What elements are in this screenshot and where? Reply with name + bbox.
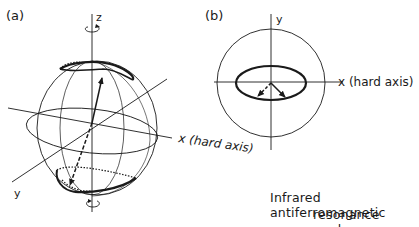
caption-line-2: resonance mode — [313, 207, 419, 227]
x-axis-label: x (hard axis) — [177, 131, 255, 156]
b-y-axis-label: y — [276, 13, 283, 26]
y-axis-label: y — [14, 187, 21, 200]
b-spin-vector-dashed — [258, 83, 271, 96]
z-axis-label: z — [96, 11, 102, 24]
x-axis — [8, 108, 172, 138]
b-spin-vector-solid — [271, 83, 285, 97]
sphere-outline — [37, 61, 157, 195]
panel-b-label: (b) — [205, 8, 223, 23]
panel-a: (a) z x (hard axis) y — [6, 8, 254, 212]
panel-b: (b) y x (hard axis) — [205, 8, 413, 150]
spin-vector-up — [92, 78, 102, 123]
spin-vector-down — [70, 123, 92, 185]
b-x-axis-label: x (hard axis) — [338, 75, 413, 89]
rotation-arrow-bottom-icon — [87, 199, 100, 207]
rotation-arrow-top-icon — [85, 24, 100, 32]
panel-a-label: (a) — [6, 8, 24, 23]
